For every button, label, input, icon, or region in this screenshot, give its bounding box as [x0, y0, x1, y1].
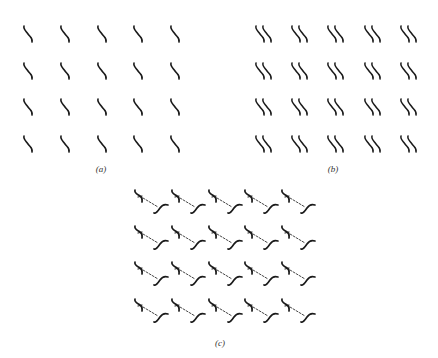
single-s-curve-icon — [97, 135, 108, 157]
s-curve-pair-dashed-link-icon — [134, 225, 170, 255]
double-s-curve-icon — [364, 98, 382, 120]
double-s-curve-icon — [255, 62, 273, 84]
double-s-curve-icon — [255, 98, 273, 120]
single-s-curve-icon — [60, 135, 71, 157]
single-s-curve-icon — [60, 98, 71, 120]
double-s-curve-icon — [327, 98, 345, 120]
s-curve-pair-dashed-link-icon — [171, 261, 207, 291]
s-curve-pair-dashed-link-icon — [208, 225, 244, 255]
s-curve-pair-dashed-link-icon — [208, 189, 244, 219]
s-curve-pair-dashed-link-icon — [244, 298, 280, 328]
s-curve-pair-dashed-link-icon — [171, 189, 207, 219]
s-curve-pair-dashed-link-icon — [281, 298, 317, 328]
s-curve-pair-dashed-link-icon — [134, 189, 170, 219]
single-s-curve-icon — [60, 62, 71, 84]
s-curve-pair-dashed-link-icon — [244, 261, 280, 291]
single-s-curve-icon — [133, 62, 144, 84]
s-curve-pair-dashed-link-icon — [244, 225, 280, 255]
single-s-curve-icon — [23, 62, 34, 84]
double-s-curve-icon — [364, 62, 382, 84]
double-s-curve-icon — [291, 25, 309, 47]
s-curve-pair-dashed-link-icon — [281, 225, 317, 255]
s-curve-pair-dashed-link-icon — [208, 298, 244, 328]
double-s-curve-icon — [327, 25, 345, 47]
single-s-curve-icon — [23, 25, 34, 47]
double-s-curve-icon — [364, 25, 382, 47]
single-s-curve-icon — [170, 98, 181, 120]
double-s-curve-icon — [291, 62, 309, 84]
panel-a-caption: (a) — [96, 164, 107, 174]
double-s-curve-icon — [255, 25, 273, 47]
single-s-curve-icon — [133, 25, 144, 47]
single-s-curve-icon — [60, 25, 71, 47]
single-s-curve-icon — [133, 98, 144, 120]
s-curve-pair-dashed-link-icon — [171, 225, 207, 255]
double-s-curve-icon — [400, 98, 418, 120]
single-s-curve-icon — [23, 98, 34, 120]
single-s-curve-icon — [170, 135, 181, 157]
s-curve-pair-dashed-link-icon — [281, 261, 317, 291]
single-s-curve-icon — [23, 135, 34, 157]
double-s-curve-icon — [255, 135, 273, 157]
single-s-curve-icon — [97, 62, 108, 84]
double-s-curve-icon — [400, 25, 418, 47]
double-s-curve-icon — [291, 135, 309, 157]
single-s-curve-icon — [170, 62, 181, 84]
double-s-curve-icon — [327, 62, 345, 84]
single-s-curve-icon — [97, 25, 108, 47]
double-s-curve-icon — [400, 135, 418, 157]
single-s-curve-icon — [170, 25, 181, 47]
s-curve-pair-dashed-link-icon — [244, 189, 280, 219]
s-curve-pair-dashed-link-icon — [134, 261, 170, 291]
single-s-curve-icon — [97, 98, 108, 120]
s-curve-pair-dashed-link-icon — [134, 298, 170, 328]
double-s-curve-icon — [291, 98, 309, 120]
double-s-curve-icon — [400, 62, 418, 84]
s-curve-pair-dashed-link-icon — [281, 189, 317, 219]
double-s-curve-icon — [327, 135, 345, 157]
s-curve-pair-dashed-link-icon — [208, 261, 244, 291]
s-curve-pair-dashed-link-icon — [171, 298, 207, 328]
single-s-curve-icon — [133, 135, 144, 157]
panel-b-caption: (b) — [328, 164, 339, 174]
panel-c-caption: (c) — [215, 338, 225, 348]
double-s-curve-icon — [364, 135, 382, 157]
